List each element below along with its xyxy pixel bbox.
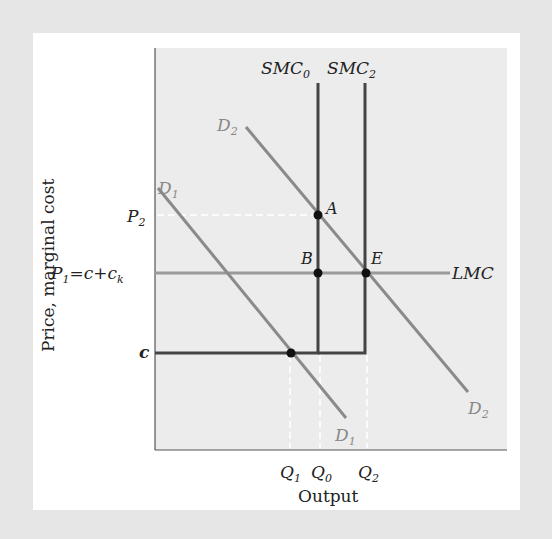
y-axis-title: Price, marginal cost: [38, 179, 58, 352]
point-e: [362, 269, 371, 278]
x-tick-q0: Q0: [311, 462, 332, 485]
smc0-label: SMC0: [261, 58, 310, 81]
y-tick-c: c: [139, 342, 150, 362]
lmc-label: LMC: [451, 263, 494, 283]
x-tick-q1: Q1: [280, 462, 301, 485]
x-axis-title: Output: [298, 486, 359, 506]
y-tick-p1: P1=c+ck: [50, 263, 124, 286]
point-e-label: E: [370, 249, 383, 268]
point-d1-c: [287, 349, 296, 358]
smc2-label: SMC2: [327, 58, 376, 81]
point-a: [314, 211, 323, 220]
point-a-label: A: [324, 199, 338, 218]
point-b: [314, 269, 323, 278]
y-tick-p2: P2: [126, 206, 145, 229]
x-tick-q2: Q2: [358, 462, 379, 485]
point-b-label: B: [300, 249, 313, 268]
economics-diagram: SMC0 SMC2 LMC D1 D2 D1 D2 A B E P2 P1=c+…: [0, 0, 552, 539]
